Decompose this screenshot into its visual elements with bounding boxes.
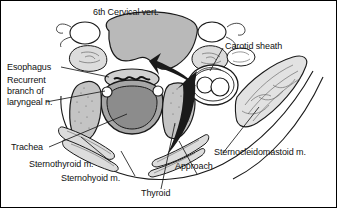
common-carotid-artery xyxy=(197,77,213,93)
label-carotid-sheath: Carotid sheath xyxy=(225,41,282,52)
label-sternocleidomastoid: Sternocleidomastoid m. xyxy=(214,147,306,158)
label-trachea: Trachea xyxy=(11,142,43,153)
anatomical-figure: 6th Cervical vert. Carotid sheath Esopha… xyxy=(0,0,337,208)
label-esophagus: Esophagus xyxy=(7,62,51,73)
recurrent-laryngeal-nerve-left xyxy=(102,87,112,97)
transverse-process-left xyxy=(70,22,100,44)
lateral-mass-left xyxy=(69,46,106,72)
carotid-sheath xyxy=(188,65,238,105)
label-thyroid: Thyroid xyxy=(141,188,170,199)
internal-jugular-vein xyxy=(211,78,229,96)
label-recurrent-nerve-line3: laryngeal n. xyxy=(7,97,52,108)
label-cervical-vert: 6th Cervical vert. xyxy=(93,7,159,18)
label-approach: Approach xyxy=(175,161,213,172)
sternocleidomastoid-muscle xyxy=(235,56,306,127)
leader-sternohyoid xyxy=(121,151,135,176)
label-recurrent-nerve-line1: Recurrent xyxy=(7,75,46,86)
transverse-process-right xyxy=(198,22,226,42)
label-sternohyoid: Sternohyoid m. xyxy=(61,173,120,184)
label-sternothyroid: Sternothyroid m. xyxy=(29,159,93,170)
recurrent-laryngeal-nerve-right xyxy=(153,86,163,96)
label-recurrent-nerve-line2: branch of xyxy=(7,86,44,97)
